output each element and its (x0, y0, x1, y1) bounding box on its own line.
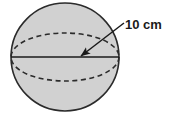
sphere-figure-canvas: 10 cm (0, 0, 171, 115)
radius-dimension-label: 10 cm (125, 17, 162, 32)
sphere-diagram-svg: 10 cm (0, 0, 171, 115)
